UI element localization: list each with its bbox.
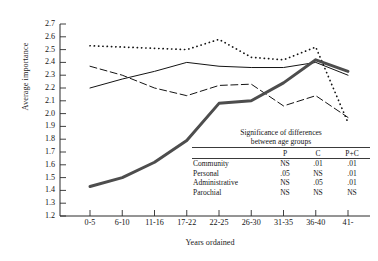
row-label: Parochial [192, 188, 268, 197]
caption-line-2: between age groups [192, 137, 370, 146]
y-tick-label: 2.1 [29, 97, 55, 105]
x-tick-label: 26-30 [242, 219, 261, 227]
x-tick-label: 31-35 [274, 219, 293, 227]
cell-p: NS [268, 188, 302, 197]
table-row: AdministrativeNS.05.01 [192, 178, 370, 187]
cell-pc: NS [334, 188, 370, 197]
y-tick-label: 2.0 [29, 110, 55, 118]
cell-pc: .01 [334, 159, 370, 169]
x-tick-label: 36-40 [306, 219, 325, 227]
cell-c: NS [302, 169, 334, 178]
x-tick-label: 17-22 [177, 219, 196, 227]
column-header-c: C [302, 148, 334, 159]
cell-p: NS [268, 178, 302, 187]
caption-line-1: Significance of differences [192, 128, 370, 137]
cell-p: .05 [268, 169, 302, 178]
significance-table-caption: Significance of differences between age … [192, 128, 370, 147]
cell-c: NS [302, 188, 334, 197]
row-label: Community [192, 159, 268, 169]
y-tick-label: 2.6 [29, 33, 55, 41]
cell-c: .05 [302, 178, 334, 187]
figure: Average importance 2.72.62.52.42.32.22.1… [0, 0, 378, 261]
table-row: Personal.05NS.01 [192, 169, 370, 178]
y-tick-label: 2.4 [29, 58, 55, 66]
y-tick-label: 2.7 [29, 20, 55, 28]
y-tick-marks [60, 24, 66, 216]
cell-p: NS [268, 159, 302, 169]
x-tick-label: 0-5 [85, 219, 96, 227]
significance-table: Significance of differences between age … [192, 128, 370, 197]
y-tick-label: 2.3 [29, 71, 55, 79]
row-label: Administrative [192, 178, 268, 187]
table-header-row: P C P+C [192, 148, 370, 159]
y-tick-label: 1.8 [29, 135, 55, 143]
series-line-administrative [90, 66, 348, 117]
significance-data-table: P C P+C CommunityNS.01.01Personal.05NS.0… [192, 147, 370, 197]
y-tick-label: 2.2 [29, 84, 55, 92]
row-label: Personal [192, 169, 268, 178]
y-tick-label: 2.5 [29, 46, 55, 54]
y-tick-label: 1.6 [29, 161, 55, 169]
table-row: ParochialNSNSNS [192, 188, 370, 197]
table-header: P C P+C [192, 148, 370, 159]
series-line-community [90, 39, 348, 122]
y-tick-label: 1.9 [29, 122, 55, 130]
column-header-p: P [268, 148, 302, 159]
y-tick-label: 1.3 [29, 199, 55, 207]
cell-pc: .01 [334, 178, 370, 187]
x-tick-label: 41- [343, 219, 354, 227]
column-header-pc: P+C [334, 148, 370, 159]
y-tick-label: 1.7 [29, 148, 55, 156]
column-header-blank [192, 148, 268, 159]
table-row: CommunityNS.01.01 [192, 159, 370, 169]
table-body: CommunityNS.01.01Personal.05NS.01Adminis… [192, 159, 370, 197]
y-tick-label: 1.4 [29, 186, 55, 194]
x-tick-label: 11-16 [145, 219, 164, 227]
y-tick-label: 1.5 [29, 174, 55, 182]
cell-pc: .01 [334, 169, 370, 178]
x-axis-title: Years ordained [60, 238, 360, 247]
cell-c: .01 [302, 159, 334, 169]
x-tick-label: 6-10 [115, 219, 130, 227]
x-tick-label: 22-25 [210, 219, 229, 227]
x-tick-labels: 0-56-1011-1617-2222-2526-3031-3536-4041- [0, 215, 378, 229]
